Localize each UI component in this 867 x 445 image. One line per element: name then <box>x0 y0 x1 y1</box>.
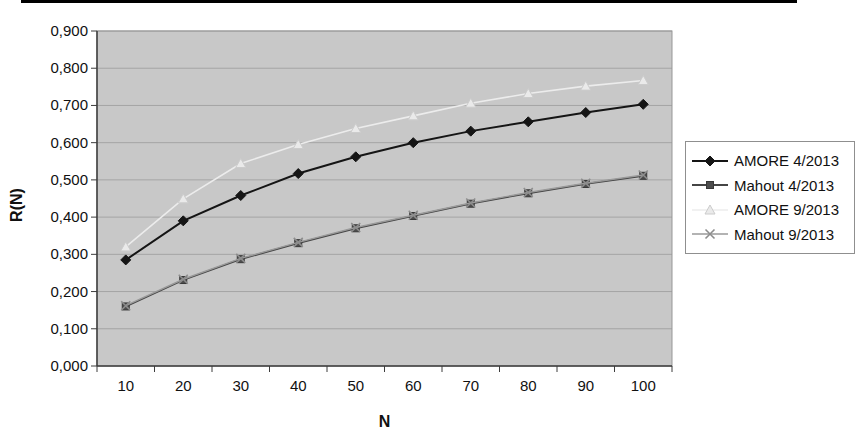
legend-item-amore-4-2013: AMORE 4/2013 <box>691 152 849 169</box>
x-tick-label: 80 <box>506 377 550 395</box>
chart-figure: 0,0000,1000,2000,3000,4000,5000,6000,700… <box>0 0 867 445</box>
legend-label: Mahout 4/2013 <box>734 177 834 194</box>
x-tick-label: 50 <box>334 377 378 395</box>
x-tick-label: 90 <box>564 377 608 395</box>
x-tick-label: 70 <box>449 377 493 395</box>
x-tick-label: 30 <box>219 377 263 395</box>
y-axis-title: R(N) <box>8 188 26 222</box>
y-tick-label: 0,200 <box>34 283 88 301</box>
legend-label: AMORE 4/2013 <box>734 152 839 169</box>
x-tick-label: 20 <box>161 377 205 395</box>
y-tick-label: 0,500 <box>34 171 88 189</box>
x-tick-label: 100 <box>621 377 665 395</box>
y-tick-label: 0,700 <box>34 96 88 114</box>
legend-item-mahout-9-2013: Mahout 9/2013 <box>691 226 849 243</box>
legend-item-mahout-4-2013: Mahout 4/2013 <box>691 177 849 194</box>
y-tick-label: 0,000 <box>34 357 88 375</box>
x-tick-label: 40 <box>276 377 320 395</box>
square-marker-icon <box>691 178 729 192</box>
x-tick-label: 60 <box>391 377 435 395</box>
diamond-marker-icon <box>691 154 729 168</box>
y-tick-label: 0,600 <box>34 134 88 152</box>
legend-label: AMORE 9/2013 <box>734 201 839 218</box>
y-tick-label: 0,100 <box>34 320 88 338</box>
y-tick-label: 0,300 <box>34 245 88 263</box>
legend: AMORE 4/2013Mahout 4/2013AMORE 9/2013Mah… <box>685 141 855 254</box>
legend-label: Mahout 9/2013 <box>734 226 834 243</box>
y-tick-label: 0,400 <box>34 208 88 226</box>
y-tick-label: 0,900 <box>34 22 88 40</box>
triangle-up-marker-icon <box>691 203 729 217</box>
x-tick-label: 10 <box>104 377 148 395</box>
x-marker-icon <box>691 227 729 241</box>
x-axis-title: N <box>97 413 672 431</box>
y-tick-label: 0,800 <box>34 59 88 77</box>
legend-item-amore-9-2013: AMORE 9/2013 <box>691 201 849 218</box>
